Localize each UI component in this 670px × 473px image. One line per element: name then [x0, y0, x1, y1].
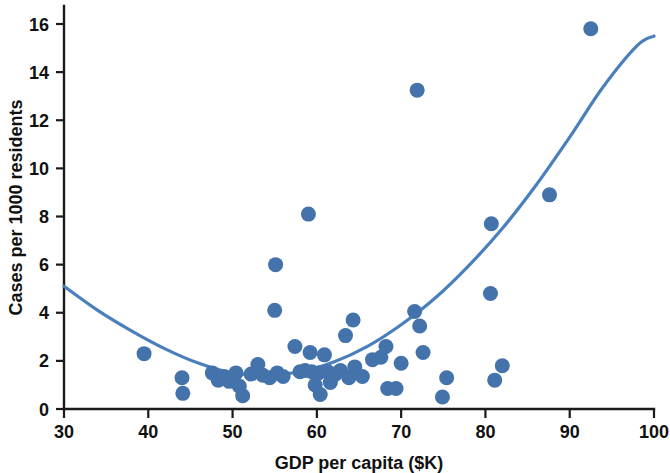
- data-point: [495, 358, 510, 373]
- x-tick-label: 60: [307, 422, 327, 442]
- data-point: [287, 339, 302, 354]
- y-tick-label: 0: [39, 400, 49, 420]
- data-point: [268, 257, 283, 272]
- data-point: [313, 387, 328, 402]
- x-tick-label: 90: [560, 422, 580, 442]
- data-point: [439, 370, 454, 385]
- data-point: [355, 369, 370, 384]
- x-axis-tick-labels: 30405060708090100: [54, 422, 669, 442]
- y-tick-label: 4: [39, 303, 49, 323]
- x-axis-tick-marks: [64, 409, 654, 418]
- x-axis-title: GDP per capita ($K): [275, 453, 444, 473]
- chart-canvas: 0246810121416 30405060708090100 GDP per …: [0, 0, 670, 473]
- data-point: [137, 346, 152, 361]
- x-tick-label: 100: [639, 422, 669, 442]
- data-point: [487, 373, 502, 388]
- data-point: [303, 345, 318, 360]
- data-point: [410, 83, 425, 98]
- data-point: [317, 347, 332, 362]
- y-tick-label: 12: [29, 111, 49, 131]
- data-point: [583, 21, 598, 36]
- data-point: [267, 303, 282, 318]
- data-point: [175, 386, 190, 401]
- data-point: [412, 318, 427, 333]
- data-point: [416, 345, 431, 360]
- data-point: [276, 369, 291, 384]
- y-axis-tick-labels: 0246810121416: [29, 15, 49, 420]
- data-point: [542, 187, 557, 202]
- y-tick-label: 6: [39, 255, 49, 275]
- data-point: [484, 216, 499, 231]
- data-point: [407, 304, 422, 319]
- x-tick-label: 30: [54, 422, 74, 442]
- data-point: [378, 339, 393, 354]
- scatter-plot-figure: 0246810121416 30405060708090100 GDP per …: [0, 0, 670, 473]
- y-tick-label: 10: [29, 159, 49, 179]
- data-point: [483, 286, 498, 301]
- y-tick-label: 14: [29, 63, 49, 83]
- x-tick-label: 80: [475, 422, 495, 442]
- data-point: [228, 365, 243, 380]
- data-point: [235, 388, 250, 403]
- data-point: [389, 381, 404, 396]
- x-tick-label: 40: [138, 422, 158, 442]
- y-axis-title: Cases per 1000 residents: [6, 99, 26, 315]
- data-point: [346, 312, 361, 327]
- data-point: [435, 389, 450, 404]
- y-tick-label: 2: [39, 351, 49, 371]
- x-tick-label: 50: [223, 422, 243, 442]
- data-point: [301, 207, 316, 222]
- y-tick-label: 16: [29, 15, 49, 35]
- x-tick-label: 70: [391, 422, 411, 442]
- data-point: [175, 370, 190, 385]
- data-point: [338, 328, 353, 343]
- data-point: [394, 356, 409, 371]
- y-tick-label: 8: [39, 207, 49, 227]
